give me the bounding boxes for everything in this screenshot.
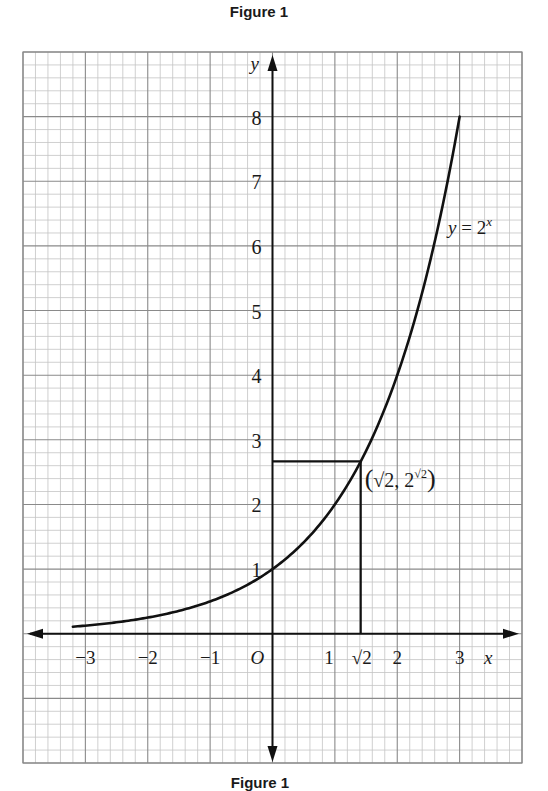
x-tick-label: −3 [75, 647, 95, 668]
origin-label: O [251, 647, 265, 668]
x-tick-label: 3 [455, 647, 465, 668]
curve-label: y = 2x [446, 214, 492, 238]
x-tick-label: −1 [200, 647, 220, 668]
arrow-up-icon [268, 55, 278, 71]
x-tick-label: −2 [138, 647, 158, 668]
y-tick-label: 8 [252, 107, 262, 129]
y-tick-label: 7 [252, 171, 262, 193]
curve-2-pow-x [73, 117, 460, 627]
point-label-exp: √2 [414, 467, 427, 481]
axes [27, 55, 519, 762]
y-tick-label: 5 [252, 301, 262, 323]
arrow-down-icon [268, 746, 278, 762]
curve-label-var: y [446, 217, 457, 238]
y-axis-label: y [249, 53, 260, 74]
point-label-sep: , [394, 469, 404, 491]
x-axis-label: x [483, 647, 493, 668]
x-tick-label: 2 [393, 647, 403, 668]
point-label: (√2, 2√2) [365, 464, 436, 493]
x-tick-label: 1 [324, 647, 334, 668]
x-tick-label: √2 [352, 647, 372, 668]
y-tick-label: 1 [252, 559, 262, 581]
arrow-right-icon [503, 629, 519, 639]
y-tick-label: 2 [252, 494, 262, 516]
arrow-left-icon [27, 629, 43, 639]
point-label-close: ) [427, 464, 436, 493]
point-label-x: √2 [373, 469, 394, 491]
point-label-base: 2 [404, 469, 414, 491]
x-tick-labels: −3−2−11√223 [75, 647, 464, 668]
point-label-open: ( [365, 464, 374, 493]
figure-caption: Figure 1 [0, 774, 520, 791]
y-tick-label: 6 [252, 236, 262, 258]
y-tick-label: 4 [252, 365, 262, 387]
curve-label-exponent: x [485, 214, 492, 229]
y-tick-label: 3 [252, 430, 262, 452]
curve-label-rest: = 2 [456, 217, 486, 238]
